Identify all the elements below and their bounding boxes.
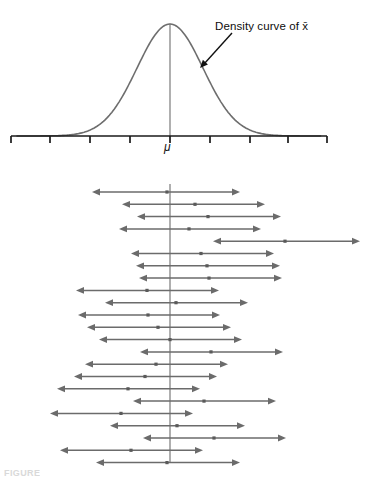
confidence-interval-row bbox=[96, 459, 240, 466]
ci-right-arrowhead bbox=[234, 336, 242, 343]
confidence-interval-row bbox=[78, 312, 220, 319]
confidence-interval-row bbox=[50, 410, 193, 417]
ci-point-estimate bbox=[174, 301, 177, 304]
ci-left-arrowhead bbox=[110, 422, 118, 429]
ci-point-estimate bbox=[165, 190, 168, 193]
ci-point-estimate bbox=[129, 449, 132, 452]
ci-left-arrowhead bbox=[136, 262, 144, 269]
confidence-interval-row bbox=[110, 422, 245, 429]
ci-point-estimate bbox=[187, 227, 190, 230]
ci-point-estimate bbox=[283, 240, 286, 243]
confidence-interval-row bbox=[92, 189, 240, 196]
ci-point-estimate bbox=[175, 424, 178, 427]
confidence-interval-row bbox=[143, 435, 286, 442]
confidence-interval-row bbox=[213, 238, 360, 245]
ci-right-arrowhead bbox=[192, 385, 200, 392]
ci-right-arrowhead bbox=[273, 213, 281, 220]
ci-left-arrowhead bbox=[76, 287, 84, 294]
ci-point-estimate bbox=[193, 203, 196, 206]
ci-left-arrowhead bbox=[213, 238, 221, 245]
ci-right-arrowhead bbox=[240, 299, 248, 306]
ci-right-arrowhead bbox=[209, 373, 217, 380]
confidence-interval-row bbox=[76, 287, 219, 294]
ci-left-arrowhead bbox=[50, 410, 58, 417]
ci-left-arrowhead bbox=[85, 361, 93, 368]
confidence-interval-row bbox=[87, 324, 231, 331]
ci-point-estimate bbox=[207, 277, 210, 280]
ci-left-arrowhead bbox=[60, 447, 68, 454]
ci-right-arrowhead bbox=[185, 410, 193, 417]
ci-left-arrowhead bbox=[131, 250, 139, 257]
ci-point-estimate bbox=[154, 363, 157, 366]
ci-point-estimate bbox=[156, 326, 159, 329]
confidence-interval-row bbox=[136, 262, 280, 269]
confidence-interval-row bbox=[137, 213, 281, 220]
statistics-figure: Density curve of x̄ μ FIGURE bbox=[0, 0, 376, 478]
ci-left-arrowhead bbox=[96, 459, 104, 466]
ci-point-estimate bbox=[165, 461, 168, 464]
ci-right-arrowhead bbox=[220, 361, 228, 368]
ci-left-arrowhead bbox=[57, 385, 65, 392]
ci-point-estimate bbox=[143, 375, 146, 378]
confidence-interval-row bbox=[122, 201, 265, 208]
confidence-interval-row bbox=[131, 250, 274, 257]
confidence-interval-row bbox=[74, 373, 217, 380]
ci-right-arrowhead bbox=[195, 447, 203, 454]
ci-right-arrowhead bbox=[253, 226, 261, 233]
ci-left-arrowhead bbox=[140, 349, 148, 356]
ci-right-arrowhead bbox=[212, 312, 220, 319]
ci-right-arrowhead bbox=[232, 189, 240, 196]
ci-right-arrowhead bbox=[232, 459, 240, 466]
confidence-interval-row bbox=[139, 275, 282, 282]
confidence-interval-row bbox=[133, 398, 276, 405]
ci-right-arrowhead bbox=[211, 287, 219, 294]
confidence-interval-row bbox=[119, 226, 261, 233]
ci-point-estimate bbox=[146, 313, 149, 316]
confidence-interval-row bbox=[60, 447, 203, 454]
ci-left-arrowhead bbox=[119, 226, 127, 233]
ci-point-estimate bbox=[209, 350, 212, 353]
ci-left-arrowhead bbox=[87, 324, 95, 331]
ci-left-arrowhead bbox=[133, 398, 141, 405]
ci-right-arrowhead bbox=[278, 435, 286, 442]
ci-left-arrowhead bbox=[122, 201, 130, 208]
ci-right-arrowhead bbox=[274, 275, 282, 282]
ci-point-estimate bbox=[126, 387, 129, 390]
ci-right-arrowhead bbox=[223, 324, 231, 331]
confidence-interval-panel bbox=[0, 0, 376, 478]
ci-right-arrowhead bbox=[266, 250, 274, 257]
figure-caption: FIGURE bbox=[4, 468, 40, 477]
ci-point-estimate bbox=[205, 264, 208, 267]
confidence-interval-row bbox=[105, 299, 248, 306]
ci-right-arrowhead bbox=[275, 349, 283, 356]
confidence-interval-row bbox=[57, 385, 200, 392]
ci-point-estimate bbox=[119, 412, 122, 415]
ci-left-arrowhead bbox=[105, 299, 113, 306]
ci-point-estimate bbox=[202, 400, 205, 403]
ci-left-arrowhead bbox=[143, 435, 151, 442]
ci-right-arrowhead bbox=[237, 422, 245, 429]
ci-left-arrowhead bbox=[74, 373, 82, 380]
ci-right-arrowhead bbox=[268, 398, 276, 405]
ci-left-arrowhead bbox=[78, 312, 86, 319]
ci-point-estimate bbox=[168, 338, 171, 341]
ci-right-arrowhead bbox=[257, 201, 265, 208]
confidence-interval-row bbox=[140, 349, 283, 356]
confidence-interval-row bbox=[85, 361, 228, 368]
ci-left-arrowhead bbox=[92, 189, 100, 196]
ci-left-arrowhead bbox=[137, 213, 145, 220]
ci-point-estimate bbox=[206, 215, 209, 218]
ci-point-estimate bbox=[199, 252, 202, 255]
ci-right-arrowhead bbox=[352, 238, 360, 245]
ci-right-arrowhead bbox=[272, 262, 280, 269]
ci-point-estimate bbox=[212, 436, 215, 439]
ci-left-arrowhead bbox=[139, 275, 147, 282]
ci-left-arrowhead bbox=[99, 336, 107, 343]
ci-point-estimate bbox=[145, 289, 148, 292]
